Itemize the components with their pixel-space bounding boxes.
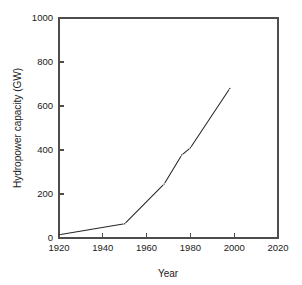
- data-point: [181, 154, 182, 155]
- x-tick-label: 1920: [48, 242, 69, 253]
- plot-background: [59, 18, 278, 238]
- x-tick-label: 1960: [136, 242, 157, 253]
- y-axis-label: Hydropower capacity (GW): [12, 68, 23, 188]
- data-point: [58, 234, 59, 235]
- y-tick-label: 1000: [32, 12, 53, 23]
- y-tick-label: 400: [37, 144, 53, 155]
- data-point: [163, 183, 164, 184]
- x-axis-tick-labels: 192019401960198020002020: [48, 242, 288, 253]
- x-axis-label: Year: [158, 268, 179, 279]
- data-point: [190, 147, 191, 148]
- x-tick-label: 2020: [267, 242, 288, 253]
- data-point: [124, 223, 125, 224]
- chart-figure: 02004006008001000 1920194019601980200020…: [0, 0, 302, 285]
- x-tick-label: 1980: [180, 242, 201, 253]
- y-tick-label: 800: [37, 56, 53, 67]
- data-point: [229, 88, 230, 89]
- y-tick-label: 200: [37, 188, 53, 199]
- y-tick-label: 600: [37, 100, 53, 111]
- x-tick-label: 2000: [224, 242, 245, 253]
- y-axis-tick-labels: 02004006008001000: [32, 12, 53, 243]
- x-tick-label: 1940: [92, 242, 113, 253]
- hydropower-line-chart: 02004006008001000 1920194019601980200020…: [0, 0, 302, 285]
